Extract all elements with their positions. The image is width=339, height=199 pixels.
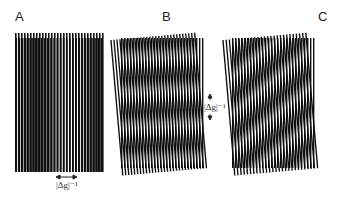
panel-a-period-annotation: |Δg|⁻¹ — [56, 180, 78, 190]
panel-c-gratings — [222, 33, 318, 176]
panel-b-period-annotation: |Δg|⁻¹ — [204, 102, 226, 112]
panel-a-gratings — [15, 33, 104, 172]
moire-figure — [0, 0, 339, 199]
panel-b-gratings — [110, 33, 207, 176]
panel-a-period-arrow-icon — [56, 175, 77, 179]
